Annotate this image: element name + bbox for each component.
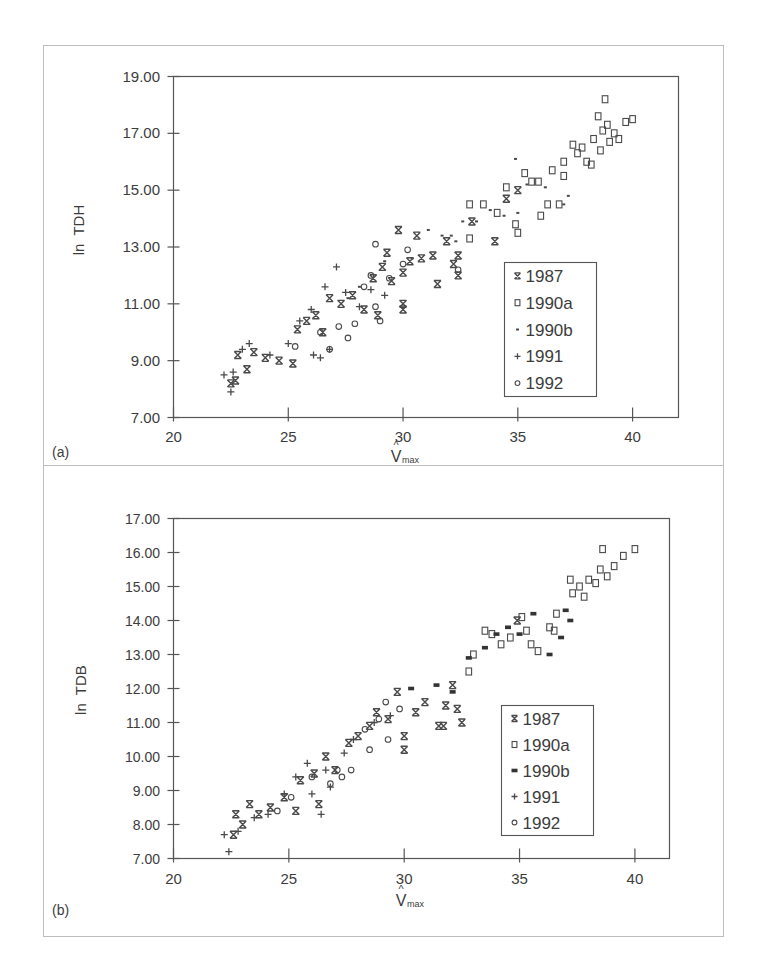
filled-dash-marker-icon <box>408 687 414 691</box>
open-square-marker-icon <box>595 113 601 120</box>
filled-dash-marker-icon <box>558 636 564 640</box>
y-tick-label: 11.00 <box>126 715 160 731</box>
open-square-marker-icon <box>611 563 617 570</box>
figure: 7.009.0011.0013.0015.0017.0019.00 202530… <box>0 0 760 978</box>
star-x-marker-icon <box>289 360 296 367</box>
star-x-marker-icon <box>345 739 352 746</box>
open-square-marker-icon <box>602 96 608 103</box>
open-circle-marker-icon <box>383 699 389 705</box>
y-tick-label: 8.00 <box>133 817 160 833</box>
star-x-marker-icon <box>292 807 299 814</box>
x-axis-label-sub-b: max <box>407 899 425 909</box>
plus-marker-icon <box>246 340 253 347</box>
plus-marker-icon <box>342 289 349 296</box>
star-x-marker-icon <box>255 811 262 818</box>
star-x-marker-icon <box>234 351 241 358</box>
star-x-marker-icon <box>297 777 304 784</box>
small-dot-marker-icon <box>441 235 444 237</box>
open-square-marker-icon <box>598 147 604 154</box>
small-dot-marker-icon <box>514 158 517 160</box>
filled-dash-marker-icon <box>433 683 439 687</box>
small-dot-marker-icon <box>489 209 492 211</box>
star-x-marker-icon <box>349 292 356 299</box>
plus-marker-icon <box>251 814 258 821</box>
star-x-marker-icon <box>468 218 475 225</box>
chart-panel-a: 7.009.0011.0013.0015.0017.0019.00 202530… <box>52 68 679 466</box>
x-tick-label: 20 <box>165 870 182 887</box>
filled-dash-marker-icon <box>517 632 523 636</box>
open-square-marker-icon <box>556 201 562 208</box>
y-tick-label: 9.00 <box>133 783 160 799</box>
open-square-marker-icon <box>494 209 500 216</box>
star-x-marker-icon <box>383 249 390 256</box>
open-square-marker-icon <box>538 212 544 219</box>
panel-label-b: (b) <box>52 902 69 918</box>
star-x-marker-icon <box>294 326 301 333</box>
x-tick-label: 25 <box>281 870 298 887</box>
y-tick-label: 12.00 <box>125 681 160 697</box>
open-square-marker-icon <box>536 178 542 185</box>
series-1987 <box>227 187 521 387</box>
open-square-marker-icon <box>561 172 567 179</box>
small-dot-marker-icon <box>346 297 349 299</box>
star-x-marker-icon <box>338 300 345 307</box>
x-axis-label-main-a: V <box>391 448 402 465</box>
open-square-marker-icon <box>623 118 629 125</box>
open-square-marker-icon <box>515 229 521 236</box>
open-circle-marker-icon <box>373 304 379 310</box>
small-dot-marker-icon <box>454 240 457 242</box>
plus-marker-icon <box>235 828 242 835</box>
filled-dash-marker-icon <box>567 619 573 623</box>
y-tick-label: 7.00 <box>131 409 160 426</box>
star-x-marker-icon <box>322 753 329 760</box>
filled-dash-marker-icon <box>493 632 499 636</box>
chart-panel-b: 7.008.009.0010.0011.0012.0013.0014.0015.… <box>52 511 670 919</box>
open-square-marker-icon <box>466 668 472 675</box>
open-circle-marker-icon <box>336 324 342 330</box>
x-tick-label: 35 <box>511 870 528 887</box>
legend-label: 1990a <box>526 294 574 313</box>
plus-marker-icon <box>322 767 329 774</box>
star-x-marker-icon <box>230 831 237 838</box>
small-dot-marker-icon <box>450 235 453 237</box>
series-1991 <box>221 712 394 855</box>
star-x-marker-icon <box>312 312 319 319</box>
x-axis-label-sub-a: max <box>402 455 420 465</box>
open-circle-marker-icon <box>385 737 391 743</box>
x-axis-label-main-b: V <box>396 892 407 909</box>
star-x-marker-icon <box>394 688 401 695</box>
star-x-marker-icon <box>442 702 449 709</box>
open-circle-marker-icon <box>400 261 406 267</box>
open-square-marker-icon <box>467 235 473 242</box>
open-circle-marker-icon <box>397 706 403 712</box>
open-square-marker-icon <box>581 593 587 600</box>
open-square-marker-icon <box>482 627 488 634</box>
series-1991 <box>221 263 389 395</box>
open-square-marker-icon <box>568 576 574 583</box>
x-tick-label: 20 <box>165 428 182 445</box>
y-tick-label: 10.00 <box>125 749 160 765</box>
filled-dash-marker-icon <box>512 769 518 773</box>
open-square-marker-icon <box>524 627 530 634</box>
filled-dash-marker-icon <box>466 656 472 660</box>
star-x-marker-icon <box>443 238 450 245</box>
filled-dash-marker-icon <box>530 612 536 616</box>
small-dot-marker-icon <box>475 220 478 222</box>
open-square-marker-icon <box>591 136 597 143</box>
legend-label: 1992 <box>526 374 564 393</box>
plus-marker-icon <box>304 760 311 767</box>
y-tick-label: 14.00 <box>125 613 160 629</box>
plus-marker-icon <box>310 351 317 358</box>
star-x-marker-icon <box>454 705 461 712</box>
small-dot-marker-icon <box>526 183 529 185</box>
legend-label: 1992 <box>523 814 561 833</box>
y-tick-label: 9.00 <box>131 352 160 369</box>
open-square-marker-icon <box>561 158 567 165</box>
star-x-marker-icon <box>503 195 510 202</box>
open-square-marker-icon <box>632 546 638 553</box>
y-tick-label: 13.00 <box>122 238 160 255</box>
star-x-marker-icon <box>401 733 408 740</box>
star-x-marker-icon <box>250 349 257 356</box>
open-circle-marker-icon <box>373 241 379 247</box>
star-x-marker-icon <box>315 801 322 808</box>
